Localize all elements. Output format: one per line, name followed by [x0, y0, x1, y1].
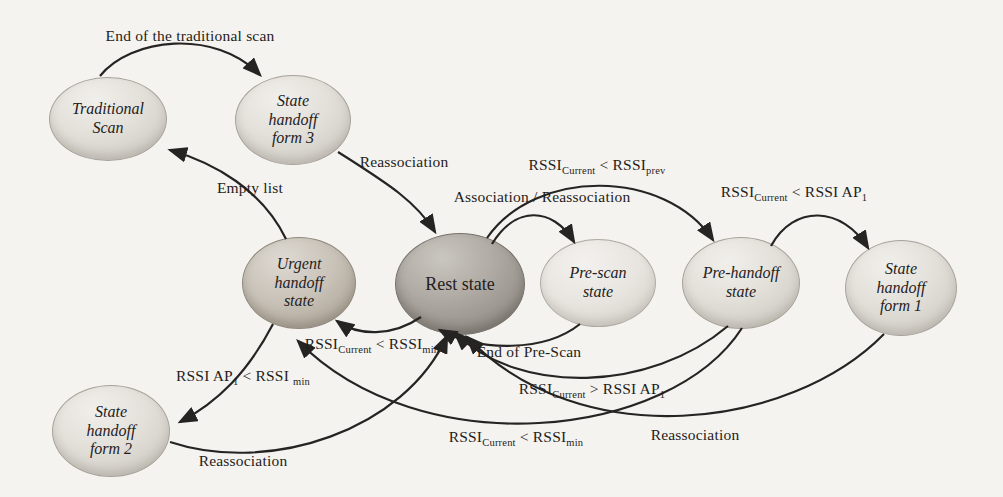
- edge-label-rssi-current-lt-min-lower: RSSICurrent < RSSImin: [449, 428, 584, 446]
- state-label: State handoff form 2: [87, 403, 136, 459]
- edge-label-rssi-ap1-lt-min: RSSI AP1 < RSSI min: [176, 367, 310, 385]
- edge-prehandoff-to-form1-arrow: [771, 215, 868, 248]
- edge-label-rssi-current-gt-ap1: RSSICurrent > RSSI AP1: [519, 380, 666, 398]
- edge-rest-to-prescan-arrow: [492, 215, 574, 244]
- state-label: Pre-scan state: [569, 264, 626, 301]
- state-node-traditional-scan: Traditional Scan: [49, 77, 167, 161]
- edge-traditional-to-form3-arrow: [100, 43, 260, 76]
- state-label: State handoff form 3: [269, 92, 318, 148]
- edge-label-association-reassociation: Association / Reassociation: [454, 188, 631, 206]
- edge-label-reassociation-form3: Reassociation: [360, 153, 449, 171]
- state-node-pre-scan: Pre-scan state: [540, 239, 656, 327]
- edge-rest-to-urgent-arrow: [337, 317, 421, 332]
- state-label: Rest state: [425, 274, 495, 295]
- edge-label-empty-list: Empty list: [217, 179, 283, 197]
- state-label: Urgent handoff state: [275, 255, 324, 311]
- edge-label-rssi-current-lt-ap1: RSSICurrent < RSSI AP1: [721, 183, 868, 201]
- state-node-handoff-form-1: State handoff form 1: [845, 240, 957, 336]
- state-label: Traditional Scan: [72, 100, 144, 137]
- edge-label-rssi-current-lt-prev: RSSICurrent < RSSIprev: [528, 156, 665, 174]
- state-label: Pre-handoff state: [703, 264, 780, 301]
- edge-label-rssi-current-lt-min-upper: RSSICurrent < RSSImin: [305, 335, 440, 353]
- edge-label-end-of-traditional-scan: End of the traditional scan: [106, 27, 275, 45]
- state-node-pre-handoff: Pre-handoff state: [682, 237, 800, 329]
- state-node-rest: Rest state: [395, 233, 525, 335]
- state-diagram: Traditional Scan State handoff form 3 Ur…: [0, 0, 1003, 497]
- edge-label-reassociation-form2: Reassociation: [199, 452, 288, 470]
- edge-form2-to-rest-arrow: [170, 336, 447, 453]
- edge-label-end-of-pre-scan: End of Pre-Scan: [477, 343, 582, 361]
- state-node-handoff-form-2: State handoff form 2: [52, 385, 170, 477]
- state-node-urgent-handoff: Urgent handoff state: [242, 237, 356, 329]
- edge-label-reassociation-form1: Reassociation: [651, 426, 740, 444]
- state-node-handoff-form-3: State handoff form 3: [235, 75, 351, 165]
- state-label: State handoff form 1: [877, 260, 926, 316]
